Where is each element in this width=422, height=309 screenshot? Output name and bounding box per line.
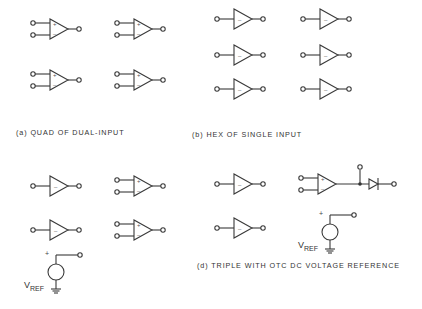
dual-input-amplifier-with-diode: + – <box>299 165 396 194</box>
dual-input-amplifier <box>115 176 165 196</box>
single-input-amplifier <box>301 45 351 65</box>
caption-panel-d: (d) TRIPLE WITH OTC DC VOLTAGE REFERENCE <box>197 261 400 270</box>
vref-sub: REF <box>30 285 44 292</box>
source-plus-sign: + <box>319 210 323 217</box>
vref-label-d: VREF <box>298 240 318 252</box>
vref-label-c: VREF <box>24 280 44 292</box>
single-input-amplifier <box>215 9 265 29</box>
caption-panel-a: (a) QUAD OF DUAL-INPUT <box>16 128 124 137</box>
single-input-amplifier <box>215 174 265 194</box>
diode-icon <box>369 179 378 189</box>
panel-c-mixed-with-reference <box>31 176 165 293</box>
voltage-reference-source <box>322 213 356 253</box>
single-input-amplifier <box>31 220 81 240</box>
dual-input-amplifier <box>115 19 165 39</box>
svg-text:+: + <box>321 176 325 182</box>
single-input-amplifier <box>215 218 265 238</box>
dual-input-amplifier <box>31 70 81 90</box>
source-plus-sign: + <box>45 250 49 257</box>
vref-sub: REF <box>304 245 318 252</box>
caption-panel-b: (b) HEX OF SINGLE INPUT <box>192 130 302 139</box>
panel-b-hex-single-input <box>215 9 351 99</box>
single-input-amplifier <box>215 45 265 65</box>
single-input-amplifier <box>215 79 265 99</box>
dual-input-amplifier <box>115 220 165 240</box>
dual-input-amplifier <box>115 70 165 90</box>
single-input-amplifier <box>301 79 351 99</box>
voltage-reference-source <box>48 253 82 293</box>
dual-input-amplifier <box>31 19 81 39</box>
panel-a-quad-dual-input <box>31 19 165 90</box>
single-input-amplifier <box>301 9 351 29</box>
single-input-amplifier <box>31 176 81 196</box>
